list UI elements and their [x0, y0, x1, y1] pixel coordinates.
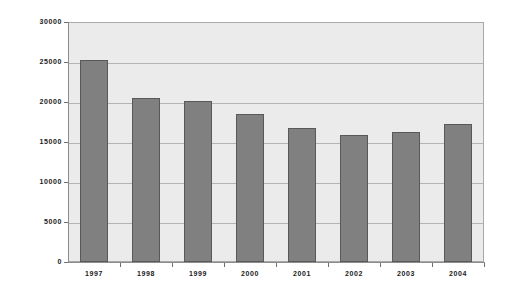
bar-chart-figure: 300002500020000150001000050000 199719981…	[0, 0, 511, 299]
y-axis-tick-mark	[64, 142, 68, 143]
y-axis-tick-label: 5000	[4, 218, 62, 225]
y-axis-tick-mark	[64, 262, 68, 263]
gridline	[69, 63, 483, 64]
bar-2004	[444, 124, 472, 262]
x-axis-tick-label: 2004	[432, 270, 484, 277]
y-axis-tick-label: 25000	[4, 58, 62, 65]
x-axis-tick-mark	[120, 263, 121, 267]
bar-2003	[392, 132, 420, 262]
x-axis-tick-mark	[484, 263, 485, 267]
y-axis-tick-mark	[64, 222, 68, 223]
y-axis-line	[68, 22, 69, 263]
bar-1997	[80, 60, 108, 262]
y-axis-tick-mark	[64, 62, 68, 63]
y-axis-tick-labels: 300002500020000150001000050000	[0, 0, 62, 299]
y-axis-tick-mark	[64, 182, 68, 183]
x-axis-tick-label: 1997	[68, 270, 120, 277]
bar-2001	[288, 128, 316, 262]
y-axis-tick-mark	[64, 22, 68, 23]
x-axis-tick-label: 2003	[380, 270, 432, 277]
y-axis-tick-label: 15000	[4, 138, 62, 145]
y-axis-tick-label: 30000	[4, 18, 62, 25]
x-axis-tick-label: 2000	[224, 270, 276, 277]
x-axis-tick-label: 2002	[328, 270, 380, 277]
bar-2000	[236, 114, 264, 262]
x-axis-tick-label: 1999	[172, 270, 224, 277]
x-axis-tick-mark	[328, 263, 329, 267]
x-axis-tick-label: 1998	[120, 270, 172, 277]
x-axis-tick-mark	[172, 263, 173, 267]
y-axis-tick-label: 20000	[4, 98, 62, 105]
bar-2002	[340, 135, 368, 262]
x-axis-tick-mark	[432, 263, 433, 267]
y-axis-tick-label: 10000	[4, 178, 62, 185]
bar-1999	[184, 101, 212, 262]
y-axis-tick-mark	[64, 102, 68, 103]
plot-area	[68, 22, 484, 262]
x-axis-tick-mark	[224, 263, 225, 267]
x-axis-tick-label: 2001	[276, 270, 328, 277]
x-axis-tick-mark	[380, 263, 381, 267]
bar-1998	[132, 98, 160, 262]
y-axis-tick-label: 0	[4, 258, 62, 265]
x-axis-tick-mark	[276, 263, 277, 267]
